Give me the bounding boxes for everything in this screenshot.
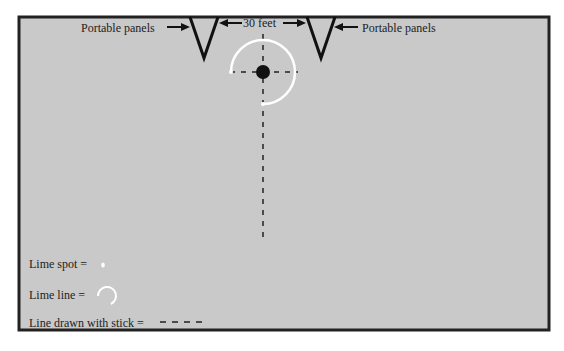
legend-lime-spot-label: Lime spot = (29, 257, 87, 271)
legend-lime-line-label: Lime line = (29, 288, 85, 302)
lime-spot-end (261, 102, 265, 106)
right-panel-label: Portable panels (362, 21, 436, 35)
distance-label: 30 feet (243, 16, 276, 30)
legend-lime-spot-icon (101, 263, 105, 268)
left-panel-label: Portable panels (81, 21, 155, 35)
legend-stick-line-label: Line drawn with stick = (29, 316, 144, 330)
lime-spot-start (229, 70, 233, 74)
field-area (19, 17, 549, 330)
center-spot-icon (256, 65, 270, 79)
